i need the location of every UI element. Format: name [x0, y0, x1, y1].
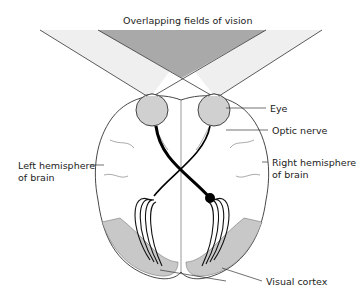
label-optic-nerve: Optic nerve [272, 125, 327, 136]
label-right-hemisphere-1: Right hemisphere [272, 157, 356, 168]
visual-pathway-diagram [0, 0, 362, 302]
label-left-hemisphere-2: of brain [18, 172, 55, 183]
label-left-hemisphere-1: Left hemisphere [18, 160, 95, 171]
label-eye: Eye [270, 103, 287, 114]
label-right-hemisphere-2: of brain [272, 169, 309, 180]
label-visual-cortex: Visual cortex [266, 276, 327, 287]
diagram-title: Overlapping fields of vision [123, 15, 252, 26]
right-eye [198, 94, 230, 126]
left-eye [136, 94, 168, 126]
